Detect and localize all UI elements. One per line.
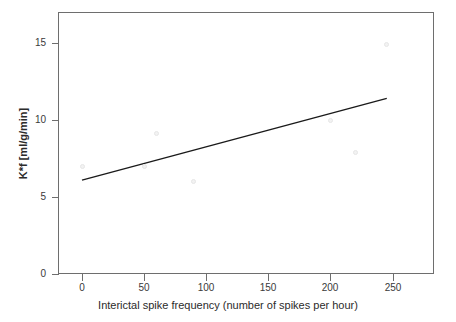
scatter-plot-figure: 0 5 10 15 0 50 100 150 200 250 Intericta… xyxy=(0,0,456,322)
y-axis-tick-5 xyxy=(52,197,59,198)
x-axis-tick-label-150: 150 xyxy=(248,283,288,293)
x-axis-tick-0 xyxy=(82,274,83,281)
y-axis-tick-label-0: 0 xyxy=(12,269,46,279)
y-axis-title: K*f [ml/g/min] xyxy=(17,44,30,244)
x-axis-title: Interictal spike frequency (number of sp… xyxy=(0,299,456,312)
x-axis-tick-250 xyxy=(393,274,394,281)
x-axis-tick-label-0: 0 xyxy=(62,283,102,293)
y-axis-tick-10 xyxy=(52,120,59,121)
x-axis-tick-label-250: 250 xyxy=(373,283,413,293)
plot-area-frame xyxy=(58,12,434,274)
x-axis-tick-100 xyxy=(206,274,207,281)
x-axis-tick-label-200: 200 xyxy=(310,283,350,293)
y-axis-tick-0 xyxy=(52,274,59,275)
x-axis-tick-label-50: 50 xyxy=(124,283,164,293)
x-axis-tick-200 xyxy=(330,274,331,281)
x-axis-tick-label-100: 100 xyxy=(186,283,226,293)
x-axis-tick-150 xyxy=(268,274,269,281)
x-axis-tick-50 xyxy=(144,274,145,281)
y-axis-tick-15 xyxy=(52,43,59,44)
